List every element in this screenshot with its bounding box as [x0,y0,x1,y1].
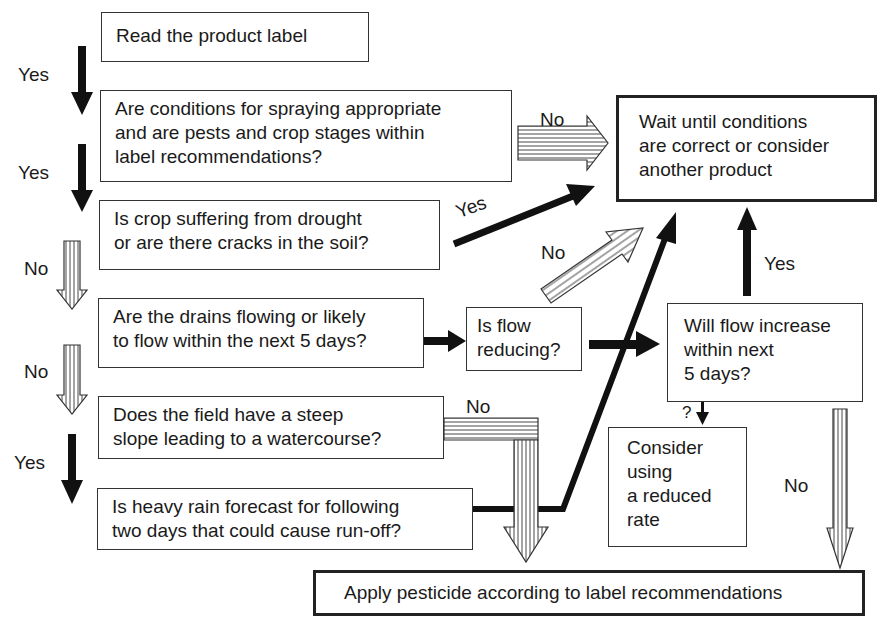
arrow-flow-increase-to-reduced [696,401,709,425]
label-no-drains: No [24,362,48,382]
arrow-drought-to-drains [57,241,87,309]
arrow-flow-increase-to-wait [737,207,757,296]
label-no-slope: No [466,397,490,417]
box-wait: Wait until conditions are correct or con… [616,95,877,202]
label-yes-flow-increase: Yes [764,254,795,274]
arrow-read-to-conditions [71,46,93,115]
arrow-conditions-to-drought [71,144,93,212]
label-no-flow-increase: No [784,476,808,496]
arrow-flow-increase-to-apply [827,409,853,568]
label-no-flow-reducing: No [541,243,565,263]
arrow-slope-to-rain [61,434,83,504]
box-reduced-rate: Consider using a reduced rate [608,427,747,547]
box-drains: Are the drains flowing or likely to flow… [98,298,424,368]
box-slope: Does the field have a steep slope leadin… [98,396,444,459]
box-flow-reducing: Is flow reducing? [466,307,582,371]
label-no-drought: No [24,259,48,279]
box-conditions: Are conditions for spraying appropriate … [100,90,512,182]
arrow-drains-to-slope [57,345,87,414]
box-drought: Is crop suffering from drought or are th… [99,200,440,270]
box-apply: Apply pesticide according to label recom… [313,570,865,616]
label-yes-conditions: Yes [18,163,49,183]
box-rain: Is heavy rain forecast for following two… [97,488,473,550]
label-no-conditions: No [540,110,564,130]
label-question: ? [682,403,691,423]
label-yes-slope: Yes [14,453,45,473]
arrow-flow-reducing-to-wait [541,228,643,303]
box-flow-increase: Will flow increase within next 5 days? [667,303,863,402]
label-yes-read: Yes [18,65,49,85]
box-read-label: Read the product label [101,12,369,62]
arrow-drains-to-flow-reducing [422,330,466,352]
